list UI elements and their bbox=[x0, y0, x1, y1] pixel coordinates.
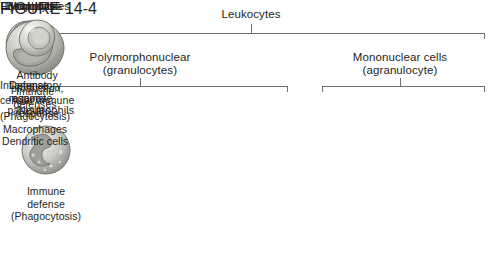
desc-line: cellular immune bbox=[0, 94, 74, 107]
top-level-bracket bbox=[18, 33, 485, 39]
group-label-polymorphonuclear: Polymorphonuclear (granulocytes) bbox=[60, 51, 220, 77]
group-label-line2: (granulocytes) bbox=[60, 64, 220, 77]
mononuclear-bracket bbox=[322, 86, 485, 92]
cell-name-lymphocytes: Lymphocytes bbox=[0, 0, 74, 12]
root-connector-stem bbox=[251, 24, 252, 33]
desc-line: defense bbox=[0, 198, 92, 211]
desc-line: Dendritic cells bbox=[0, 135, 70, 148]
desc-line: Antibody bbox=[0, 69, 74, 82]
desc-line: (Phagocytosis) bbox=[0, 210, 92, 223]
leukocyte-classification-figure: Leukocytes Polymorphonuclear (granulocyt… bbox=[0, 0, 500, 280]
desc-line: Macrophages bbox=[0, 123, 70, 136]
desc-line: response bbox=[0, 107, 74, 120]
polymorphonuclear-connector-stem bbox=[140, 78, 141, 86]
cell-column-lymphocytes: Lymphocytes Antibody production, cellula… bbox=[0, 0, 74, 119]
cell-description-lymphocytes: Antibody production, cellular immune res… bbox=[0, 69, 74, 119]
mononuclear-connector-stem bbox=[400, 78, 401, 86]
group-label-line1: Polymorphonuclear bbox=[60, 51, 220, 64]
group-label-mononuclear: Mononuclear cells (agranulocyte) bbox=[320, 51, 480, 77]
group-label-line2: (agranulocyte) bbox=[320, 64, 480, 77]
root-label: Leukocytes bbox=[196, 8, 306, 21]
desc-line: Immune bbox=[0, 185, 92, 198]
desc-line: production, bbox=[0, 82, 74, 95]
cell-description-neutrophils: Immune defense (Phagocytosis) bbox=[0, 185, 92, 223]
group-label-line1: Mononuclear cells bbox=[320, 51, 480, 64]
lymphocyte-cell-illustration bbox=[14, 17, 60, 63]
